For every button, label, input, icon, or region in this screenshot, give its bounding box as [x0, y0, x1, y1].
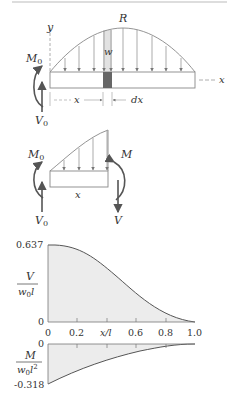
position-label: x	[74, 94, 80, 105]
shear-ylabel-num: V	[26, 270, 35, 283]
x-tick-0.8: 0.8	[158, 327, 173, 338]
load-arrows	[65, 28, 181, 71]
moment-area	[48, 344, 195, 384]
beam-analysis-figure: y R w x x	[0, 0, 229, 402]
partial-load-arrows	[64, 131, 107, 170]
x-tick-0.2: 0.2	[69, 327, 84, 338]
left-shear-label: V0	[35, 214, 48, 228]
loaded-beam-diagram: y R w x x	[25, 12, 225, 128]
x-tick-1.0: 1.0	[187, 327, 202, 338]
shear-zero-tick: 0	[38, 316, 44, 327]
x-tick-0.6: 0.6	[128, 327, 143, 338]
beam-segment	[50, 171, 108, 187]
shear-max-tick: 0.637	[16, 239, 43, 250]
shear-chart: 0.637 0 V w0l 0 0.2 x/l 0.6 0.8 1.0	[16, 239, 202, 338]
load-intensity-label: w	[104, 46, 113, 57]
element-width-label: dx	[131, 94, 143, 105]
right-moment-label: M	[120, 148, 133, 161]
moment-ylabel-den: w0l2	[17, 363, 38, 377]
moment-ylabel-num: M	[24, 349, 36, 361]
moment-label: M0	[25, 52, 42, 66]
moment-chart: 0 -0.318 M w0l2	[14, 338, 195, 390]
differential-element	[103, 72, 112, 88]
moment-min-tick: -0.318	[14, 379, 44, 390]
x-axis-label: x	[219, 74, 225, 85]
x-axis-title: x/l	[100, 327, 112, 338]
y-axis-label: y	[46, 21, 54, 34]
shear-ylabel-den: w0l	[18, 286, 34, 299]
load-curve	[50, 28, 195, 72]
moment-zero-tick: 0	[38, 338, 44, 349]
shear-area	[48, 245, 195, 322]
right-shear-label: V	[114, 214, 123, 227]
beam	[50, 72, 195, 88]
left-moment-label: M0	[27, 148, 44, 162]
free-body-diagram: x M0 V0 M V	[27, 130, 133, 228]
x-tick-0: 0	[45, 327, 51, 338]
right-moment-arrow-icon	[114, 162, 125, 200]
resultant-label: R	[118, 12, 127, 25]
shear-label: V0	[35, 114, 48, 128]
segment-length-label: x	[75, 189, 81, 200]
